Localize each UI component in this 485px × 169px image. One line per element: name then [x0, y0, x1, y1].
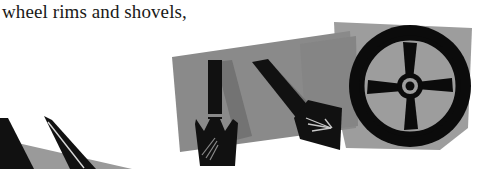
shovel-upright-collar: [207, 114, 223, 117]
page-caption: wheel rims and shovels,: [2, 1, 187, 23]
shovel-cropped-blade: [0, 118, 34, 169]
illustration-page: wheel rims and shovels,: [0, 0, 485, 169]
artwork-canvas: [0, 0, 485, 169]
wheel-hub-center: [406, 82, 415, 91]
shovel-upright-handle: [208, 60, 222, 119]
wheel-rim-illustration: [349, 25, 471, 147]
